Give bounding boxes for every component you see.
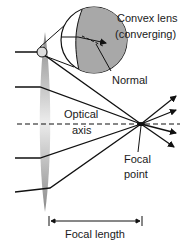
label-convex-lens: Convex lens [117, 12, 178, 24]
convex-lens-diagram: Convex lens (converging) Normal Optical … [0, 0, 188, 250]
label-focal: Focal [124, 153, 151, 165]
focal-length-bracket [49, 216, 142, 226]
label-focal-length: Focal length [65, 228, 125, 240]
detail-circle [37, 47, 47, 57]
label-point: point [124, 168, 148, 180]
label-optical: Optical [64, 108, 98, 120]
convex-lens [40, 32, 51, 212]
label-converging: (converging) [115, 28, 176, 40]
focal-point-pointer [138, 126, 141, 152]
label-axis: axis [72, 124, 92, 136]
label-normal: Normal [112, 74, 147, 86]
focal-point-dot [137, 122, 145, 126]
